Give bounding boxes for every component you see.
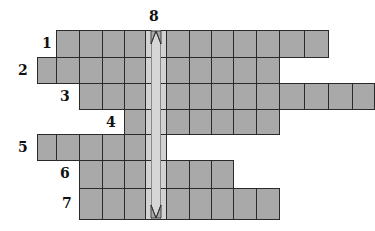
arrow-top-tip-icon xyxy=(0,0,371,231)
crossword-grid: 8 1234567 xyxy=(0,0,371,231)
